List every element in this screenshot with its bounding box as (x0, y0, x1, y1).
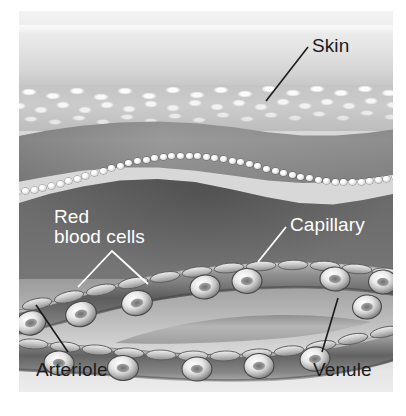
arteriole-leader-line (36, 305, 68, 352)
illustration-figure: Skin Red blood cells Capillary Arteriole… (0, 0, 406, 416)
venule-leader-line (322, 298, 338, 352)
label-venule: Venule (313, 360, 372, 380)
skin-leader-line (266, 47, 308, 101)
label-skin: Skin (312, 36, 349, 56)
label-red-blood-cells: Red blood cells (54, 207, 145, 247)
red-blood-cells-leader-line (78, 251, 148, 287)
label-capillary: Capillary (290, 215, 365, 235)
capillary-leader-line (258, 227, 286, 262)
label-arteriole: Arteriole (36, 360, 108, 380)
